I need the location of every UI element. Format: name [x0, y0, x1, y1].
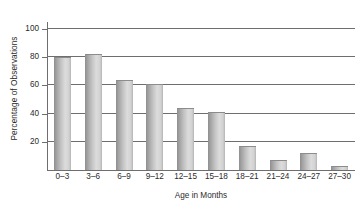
x-axis-tick-labels: 0–33–66–99–1212–1515–1818–2121–2424–2727…	[47, 173, 355, 187]
y-tick-label-80: 80	[0, 53, 39, 61]
x-axis-line	[47, 170, 355, 171]
bar-18–21	[239, 146, 256, 170]
x-tick-label-15–18: 15–18	[199, 173, 233, 181]
bar-6–9	[116, 80, 133, 170]
bar-9–12	[146, 84, 163, 170]
y-tick-label-40: 40	[0, 110, 39, 118]
y-tick-label-60: 60	[0, 81, 39, 89]
x-tick-label-12–15: 12–15	[169, 173, 203, 181]
x-tick-label-18–21: 18–21	[230, 173, 264, 181]
plot-area	[47, 22, 355, 170]
x-tick-label-27–30: 27–30	[323, 173, 357, 181]
bar-24–27	[300, 153, 317, 170]
bar-27–30	[331, 166, 348, 170]
x-tick-label-9–12: 9–12	[138, 173, 172, 181]
x-tick-label-0–3: 0–3	[45, 173, 79, 181]
bar-21–24	[270, 160, 287, 170]
y-tick-label-100: 100	[0, 25, 39, 33]
x-tick-label-21–24: 21–24	[261, 173, 295, 181]
y-tick-label-20: 20	[0, 138, 39, 146]
gridline-100	[47, 28, 355, 29]
x-tick-label-3–6: 3–6	[76, 173, 110, 181]
x-tick-label-24–27: 24–27	[292, 173, 326, 181]
x-tick-label-6–9: 6–9	[107, 173, 141, 181]
x-axis-title: Age in Months	[47, 191, 355, 200]
bar-15–18	[208, 112, 225, 170]
bar-0–3	[54, 57, 71, 170]
bar-3–6	[85, 54, 102, 170]
bar-12–15	[177, 108, 194, 170]
bar-chart-figure: Percentage of Observations 20406080100 0…	[0, 0, 359, 212]
